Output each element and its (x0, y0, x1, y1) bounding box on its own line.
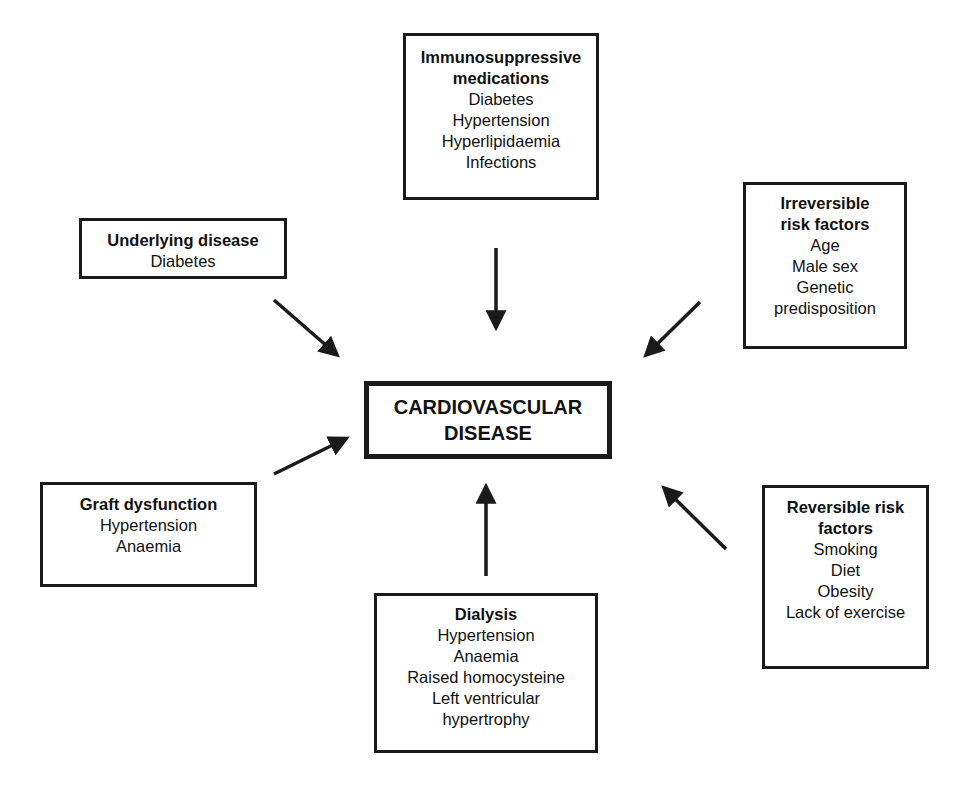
box-item: hypertrophy (377, 709, 595, 730)
arrow-graft-to-cvd (274, 439, 345, 474)
box-item: Hypertension (377, 625, 595, 646)
irreversible-risk-factors-box: Irreversible risk factors Age Male sex G… (743, 182, 907, 349)
box-item: Smoking (765, 539, 926, 560)
box-item: Lack of exercise (765, 602, 926, 623)
box-item: Diet (765, 560, 926, 581)
box-item: Infections (406, 152, 596, 173)
box-title: Immunosuppressive (406, 47, 596, 68)
box-title: factors (765, 518, 926, 539)
box-title: Underlying disease (82, 230, 284, 251)
box-title: Graft dysfunction (43, 494, 254, 515)
dialysis-box: Dialysis Hypertension Anaemia Raised hom… (374, 593, 598, 753)
box-item: Diabetes (406, 89, 596, 110)
arrow-reversible-to-cvd (665, 489, 726, 549)
box-title: Irreversible (746, 193, 904, 214)
box-item: Male sex (746, 256, 904, 277)
box-title: Reversible risk (765, 497, 926, 518)
box-item: Genetic (746, 277, 904, 298)
box-item: Diabetes (82, 251, 284, 272)
box-item: Hypertension (406, 110, 596, 131)
box-title: risk factors (746, 214, 904, 235)
underlying-disease-box: Underlying disease Diabetes (79, 218, 287, 279)
box-item: predisposition (746, 298, 904, 319)
box-item: Anaemia (377, 646, 595, 667)
box-item: Left ventricular (377, 688, 595, 709)
box-item: Hyperlipidaemia (406, 131, 596, 152)
immunosuppressive-medications-box: Immunosuppressive medications Diabetes H… (403, 33, 599, 200)
box-item: Age (746, 235, 904, 256)
center-line-2: DISEASE (444, 420, 532, 446)
center-line-1: CARDIOVASCULAR (394, 394, 583, 420)
graft-dysfunction-box: Graft dysfunction Hypertension Anaemia (40, 482, 257, 587)
cardiovascular-disease-node: CARDIOVASCULAR DISEASE (364, 381, 612, 459)
box-item: Raised homocysteine (377, 667, 595, 688)
box-title: medications (406, 68, 596, 89)
box-title: Dialysis (377, 604, 595, 625)
box-item: Obesity (765, 581, 926, 602)
box-item: Anaemia (43, 536, 254, 557)
arrow-irreversible-to-cvd (647, 302, 700, 354)
reversible-risk-factors-box: Reversible risk factors Smoking Diet Obe… (762, 485, 929, 669)
arrow-underlying-to-cvd (274, 300, 336, 354)
box-item: Hypertension (43, 515, 254, 536)
